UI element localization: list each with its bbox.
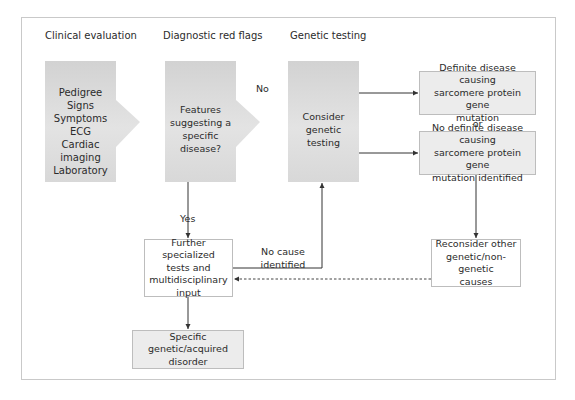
definite-mutation-node: Definite disease causing sarcomere prote… — [419, 71, 536, 115]
yes-edge-label: Yes — [180, 213, 195, 226]
consider-genetic-testing-node: Consider genetic testing — [288, 110, 359, 149]
diagram-connectors — [0, 0, 575, 400]
no-cause-identified-label: No cause identified — [258, 246, 308, 271]
reconsider-causes-node: Reconsider other genetic/non-genetic cau… — [431, 239, 521, 287]
features-suggesting-disease-node: Features suggesting a specific disease? — [165, 103, 236, 155]
clinical-evaluation-items: Pedigree Signs Symptoms ECG Cardiac imag… — [45, 86, 116, 177]
specific-disorder-node: Specific genetic/acquired disorder — [132, 330, 244, 369]
no-edge-label: No — [256, 83, 269, 96]
further-specialized-tests-node: Further specialized tests and multidisci… — [144, 239, 233, 297]
no-definite-mutation-node: No definite disease causing sarcomere pr… — [419, 131, 536, 175]
